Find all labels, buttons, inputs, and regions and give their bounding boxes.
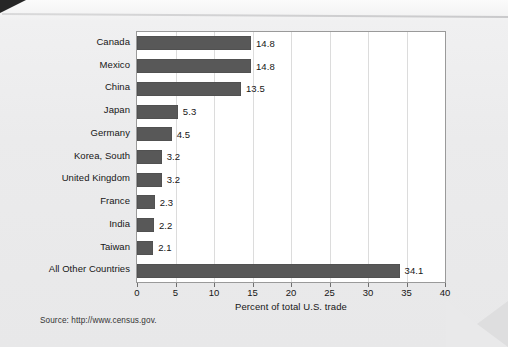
category-label: Mexico [100, 54, 130, 77]
bar-value-label: 3.2 [167, 174, 181, 185]
source-note: Source: http://www.census.gov. [40, 316, 157, 325]
bar-value-label: 14.8 [256, 61, 275, 72]
x-tick-label: 35 [401, 287, 412, 298]
bar [137, 195, 155, 209]
bar-row: 5.3 [137, 100, 445, 123]
x-tick-label: 25 [324, 287, 335, 298]
x-tick-label: 15 [247, 287, 258, 298]
bar [137, 59, 251, 73]
bar [137, 218, 154, 232]
category-label: India [109, 213, 130, 236]
bar-value-label: 34.1 [405, 265, 424, 276]
bar-row: 34.1 [137, 259, 445, 282]
category-label: Japan [104, 99, 130, 122]
category-label: Germany [91, 122, 130, 145]
bar-row: 3.2 [137, 146, 445, 169]
category-label: China [105, 76, 130, 99]
bar-row: 2.2 [137, 214, 445, 237]
category-label: Canada [96, 31, 130, 54]
bar-row: 14.8 [137, 55, 445, 78]
bar-value-label: 2.1 [158, 242, 172, 253]
bar-value-label: 13.5 [246, 83, 265, 94]
category-label: United Kingdom [62, 167, 130, 190]
bar [137, 264, 400, 278]
category-label: Taiwan [100, 236, 130, 259]
category-label: France [100, 190, 130, 213]
bar-value-label: 5.3 [183, 106, 197, 117]
category-axis-labels: CanadaMexicoChinaJapanGermanyKorea, Sout… [0, 31, 133, 283]
plot-area: 14.814.813.55.34.53.23.22.32.22.134.1 [136, 31, 446, 283]
bar [137, 150, 162, 164]
scanned-page: CanadaMexicoChinaJapanGermanyKorea, Sout… [0, 0, 508, 347]
bar [137, 241, 153, 255]
category-label: All Other Countries [49, 258, 130, 281]
category-label: Korea, South [74, 145, 130, 168]
bar-value-label: 2.2 [159, 220, 173, 231]
bar-row: 4.5 [137, 123, 445, 146]
bar [137, 173, 162, 187]
x-tick-label: 5 [173, 287, 178, 298]
bar-value-label: 2.3 [160, 197, 174, 208]
bar-value-label: 3.2 [167, 151, 181, 162]
x-axis-title: Percent of total U.S. trade [136, 301, 446, 312]
x-tick-label: 40 [440, 287, 451, 298]
bar [137, 105, 178, 119]
x-tick-label: 30 [363, 287, 374, 298]
bar-value-label: 14.8 [256, 38, 275, 49]
bar-row: 3.2 [137, 168, 445, 191]
x-tick-label: 10 [209, 287, 220, 298]
x-tick-label: 20 [286, 287, 297, 298]
bar [137, 82, 241, 96]
bar [137, 36, 251, 50]
bar-row: 2.3 [137, 191, 445, 214]
bar-row: 14.8 [137, 32, 445, 55]
bar-chart: CanadaMexicoChinaJapanGermanyKorea, Sout… [0, 0, 508, 347]
bar [137, 127, 172, 141]
x-tick-label: 0 [134, 287, 139, 298]
bar-row: 2.1 [137, 237, 445, 260]
bar-row: 13.5 [137, 77, 445, 100]
bar-value-label: 4.5 [177, 129, 191, 140]
